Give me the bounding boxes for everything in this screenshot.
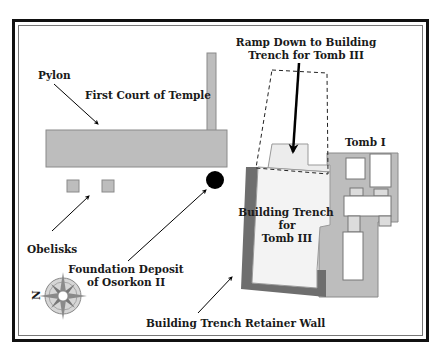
obelisk-1 (67, 180, 79, 192)
tomb1-hall (344, 196, 391, 216)
label-pylon: Pylon (38, 69, 71, 81)
label-deposit-line2: of Osorkon II (87, 276, 165, 288)
obelisk-2 (102, 180, 114, 192)
obelisks-arrow (52, 196, 89, 231)
compass-rose-icon (39, 272, 87, 320)
deposit-arrow (128, 190, 206, 261)
ramp-arrow (293, 63, 299, 152)
label-trench-line2: for (278, 219, 296, 231)
label-deposit-line1: Foundation Deposit (68, 263, 183, 275)
label-trench-line3: Tomb III (262, 232, 313, 244)
tomb1-door-c (348, 216, 360, 232)
tomb1-room-b (370, 154, 391, 187)
tomb1-long-room (343, 232, 363, 280)
tomb1-door-b (374, 189, 388, 196)
tomb1-door-a (350, 188, 363, 196)
label-trench-line1: Building Trench (238, 206, 334, 218)
foundation-deposit-marker (206, 171, 224, 189)
compass-north-label: N (30, 290, 42, 300)
tomb1-room-a (346, 158, 365, 179)
ramp-block (268, 144, 330, 172)
label-obelisks: Obelisks (27, 243, 77, 255)
retainer-wall-arrow (198, 277, 232, 313)
label-first-court: First Court of Temple (85, 89, 211, 101)
site-plan-diagram: N Pylon First Court of Temple Ramp Down … (0, 0, 438, 352)
pylon (46, 130, 227, 167)
label-ramp-line1: Ramp Down to Building (236, 36, 377, 48)
label-ramp-line2: Trench for Tomb III (248, 49, 364, 61)
label-tomb1: Tomb I (345, 136, 386, 148)
tomb1-door-d (379, 216, 391, 226)
label-retainer-wall: Building Trench Retainer Wall (146, 317, 325, 329)
